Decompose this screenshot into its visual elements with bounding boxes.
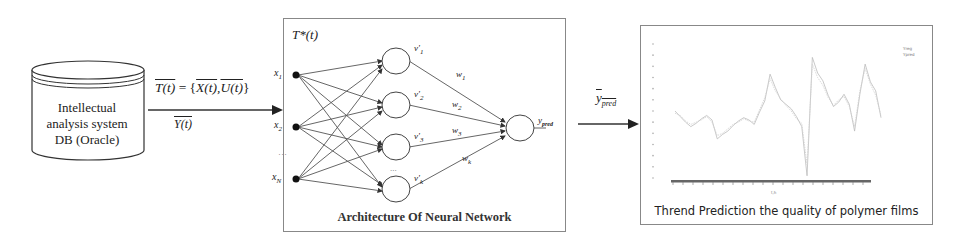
chart-panel: Yreg Ypred t,h Thrend Prediction the qua… xyxy=(640,25,933,225)
input-label-x1: x1 xyxy=(274,67,282,81)
hidden-label-2: v'2 xyxy=(414,89,423,102)
chart-caption: Thrend Prediction the quality of polymer… xyxy=(641,204,932,218)
weight-label-1: w1 xyxy=(456,69,466,82)
hidden-label-3: v'3 xyxy=(414,131,423,144)
x-axis-label: t,h xyxy=(771,190,776,195)
weight-label-2: w2 xyxy=(452,99,462,112)
input-vector-label: T(t) = {X(t),U(t)} xyxy=(155,80,249,96)
database-label-line-3: DB (Oracle) xyxy=(32,132,142,148)
legend-item-ypred: Ypred xyxy=(903,52,915,58)
output-label: ypred xyxy=(538,115,553,127)
database-label-line-1: Intellectual xyxy=(32,100,142,116)
database-label-line-2: analysis system xyxy=(32,116,142,132)
neural-network-panel: T*(t) xyxy=(283,18,566,232)
legend: Yreg Ypred xyxy=(903,46,915,58)
nn-title: Architecture Of Neural Network xyxy=(284,210,565,225)
hidden-label-1: v'1 xyxy=(414,43,423,56)
input-label-xN: xN xyxy=(272,171,281,185)
hidden-ellipsis: ... xyxy=(390,163,397,173)
database-label: Intellectual analysis system DB (Oracle) xyxy=(32,100,142,148)
arrow-db-to-nn xyxy=(148,104,284,116)
input-label-x2: x2 xyxy=(274,119,282,133)
input-ellipsis: … xyxy=(278,147,287,157)
prediction-output-label: ypred xyxy=(596,90,616,108)
weight-label-k: wk xyxy=(462,153,471,166)
hidden-label-k: v'k xyxy=(414,173,423,186)
weight-label-3: w3 xyxy=(452,125,462,138)
neural-network-diagram xyxy=(284,19,567,233)
trend-line-chart xyxy=(641,26,932,196)
arrow-nn-to-chart xyxy=(578,118,640,130)
target-vector-label: Y(t) xyxy=(174,117,192,132)
